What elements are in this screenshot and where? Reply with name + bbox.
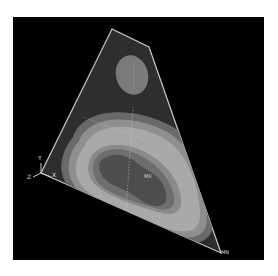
z-axis-line <box>33 173 41 177</box>
contour-plot <box>13 17 264 260</box>
triad-x-label: X <box>52 172 56 178</box>
triad-z-label: Z <box>27 174 31 180</box>
min-marker: MN <box>221 250 229 255</box>
max-marker: MX <box>144 174 152 179</box>
graphics-viewport[interactable]: Y Z X MX MN <box>13 17 264 260</box>
triad-y-label: Y <box>38 155 42 161</box>
